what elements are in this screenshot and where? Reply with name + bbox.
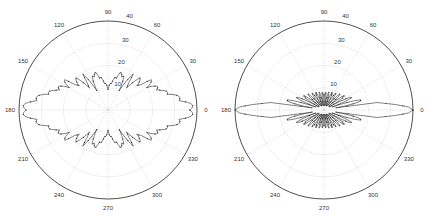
data-marker xyxy=(23,105,24,106)
data-marker xyxy=(301,121,302,122)
data-marker xyxy=(88,79,89,80)
data-marker xyxy=(76,81,77,82)
data-marker xyxy=(333,120,334,121)
data-marker xyxy=(56,129,57,130)
data-marker xyxy=(318,113,319,114)
radial-tick-label: 30 xyxy=(338,37,345,43)
data-marker xyxy=(294,116,295,117)
data-marker xyxy=(327,118,328,119)
data-marker xyxy=(166,128,167,129)
angular-grid-spoke xyxy=(108,33,153,110)
data-marker xyxy=(325,92,326,93)
data-marker xyxy=(159,129,160,130)
data-marker xyxy=(110,83,111,84)
data-marker xyxy=(317,117,318,118)
data-marker xyxy=(151,137,152,138)
data-marker xyxy=(314,95,315,96)
data-marker xyxy=(385,103,386,104)
data-marker xyxy=(138,134,139,135)
angle-tick-label: 120 xyxy=(54,22,65,28)
angle-tick-label: 240 xyxy=(270,192,281,198)
angle-tick-label: 0 xyxy=(204,107,208,113)
data-marker xyxy=(327,97,328,98)
data-marker xyxy=(325,101,326,102)
data-marker xyxy=(331,94,332,95)
data-marker xyxy=(333,95,334,96)
polar-plot-left: 030609012015018021024027030033010203040 xyxy=(5,9,208,211)
data-marker xyxy=(109,134,110,135)
data-marker xyxy=(324,94,325,95)
data-marker xyxy=(127,140,128,141)
data-marker xyxy=(119,129,120,130)
data-marker xyxy=(339,94,340,95)
data-marker xyxy=(309,104,310,105)
data-marker xyxy=(138,84,139,85)
angle-tick-label: 300 xyxy=(152,192,163,198)
data-marker xyxy=(326,105,327,106)
data-marker xyxy=(127,85,128,86)
data-marker xyxy=(353,116,354,117)
angular-grid-spoke xyxy=(108,110,153,187)
data-marker xyxy=(107,89,108,90)
data-marker xyxy=(331,124,332,125)
data-marker xyxy=(93,81,94,82)
data-marker xyxy=(147,138,148,139)
data-marker xyxy=(321,105,322,106)
data-marker xyxy=(167,125,168,126)
data-marker xyxy=(179,98,180,99)
data-marker xyxy=(146,132,147,133)
data-marker xyxy=(338,115,339,116)
data-marker xyxy=(99,77,100,78)
data-marker xyxy=(76,141,77,142)
data-marker xyxy=(321,122,322,123)
data-marker xyxy=(88,140,89,141)
data-marker xyxy=(88,85,89,86)
data-marker xyxy=(116,141,117,142)
data-marker xyxy=(122,81,123,82)
data-marker xyxy=(56,90,57,91)
angle-tick-label: 60 xyxy=(370,22,377,28)
data-marker xyxy=(321,114,322,115)
data-marker xyxy=(95,146,96,147)
data-marker xyxy=(114,142,115,143)
radial-tick-label: 10 xyxy=(114,81,121,87)
figure: 030609012015018021024027030033010203040 … xyxy=(0,0,429,217)
angular-grid-spoke xyxy=(64,33,109,110)
data-marker xyxy=(319,122,320,123)
data-marker xyxy=(185,101,186,102)
data-marker xyxy=(313,98,314,99)
data-marker xyxy=(322,92,323,93)
data-marker xyxy=(105,136,106,137)
data-marker xyxy=(36,98,37,99)
data-marker xyxy=(154,85,155,86)
data-marker xyxy=(321,97,322,98)
data-marker xyxy=(316,92,317,93)
data-marker xyxy=(245,105,246,106)
data-marker xyxy=(60,85,61,86)
data-marker xyxy=(343,95,344,96)
data-marker xyxy=(332,102,333,103)
data-marker xyxy=(106,134,107,135)
data-marker xyxy=(101,142,102,143)
data-marker xyxy=(93,138,94,139)
angle-tick-label: 300 xyxy=(368,192,379,198)
data-marker xyxy=(88,133,89,134)
data-marker xyxy=(300,113,301,114)
data-marker xyxy=(23,114,24,115)
angular-grid-spoke xyxy=(64,110,109,187)
data-marker xyxy=(121,74,122,75)
data-marker xyxy=(343,123,344,124)
data-marker xyxy=(96,90,97,91)
data-marker xyxy=(76,78,77,79)
data-marker xyxy=(296,97,297,98)
data-marker xyxy=(159,90,160,91)
angle-tick-label: 240 xyxy=(54,192,65,198)
data-marker xyxy=(345,121,346,122)
data-marker xyxy=(300,102,301,103)
data-marker xyxy=(385,116,386,117)
data-marker xyxy=(77,84,78,85)
data-marker xyxy=(317,102,318,103)
angle-tick-label: 210 xyxy=(234,156,245,162)
data-marker xyxy=(157,87,158,88)
data-marker xyxy=(127,79,128,80)
